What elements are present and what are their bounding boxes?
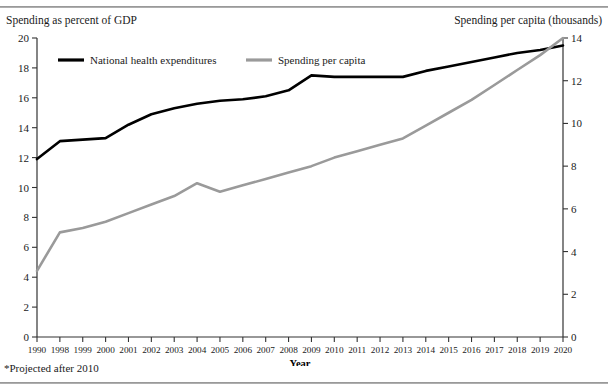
x-axis-tick-label: 2009	[302, 345, 321, 355]
bottom-divider-rule	[0, 382, 608, 384]
top-divider-rule	[0, 6, 608, 8]
x-axis-title: Year	[290, 358, 311, 366]
x-axis-tick-label: 2019	[531, 345, 550, 355]
x-axis-tick-label: 2011	[348, 345, 366, 355]
left-axis-tick-label: 2	[24, 301, 30, 313]
right-axis-tick-label: 10	[571, 117, 583, 129]
x-axis-tick-label: 2004	[188, 345, 207, 355]
right-axis-tick-label: 8	[571, 160, 577, 172]
x-axis-tick-label: 2000	[96, 345, 115, 355]
chart-footnote: *Projected after 2010	[4, 362, 99, 374]
right-axis-tick-label: 14	[571, 32, 583, 44]
left-axis-title: Spending as percent of GDP	[6, 14, 137, 26]
left-axis-tick-label: 10	[18, 182, 30, 194]
x-axis-tick-label: 2010	[325, 345, 344, 355]
right-axis-tick-label: 6	[571, 203, 577, 215]
x-axis-tick-label: 2008	[279, 345, 298, 355]
x-axis-tick-label: 2017	[485, 345, 504, 355]
x-axis-tick-label: 2003	[165, 345, 184, 355]
left-axis-tick-label: 18	[18, 62, 30, 74]
x-axis-tick-label: 2014	[417, 345, 436, 355]
x-axis: 1990199819992000200120022003200420052006…	[28, 337, 573, 366]
left-axis-tick-label: 0	[24, 331, 30, 343]
left-axis-tick-label: 20	[18, 32, 30, 44]
left-axis-tick-label: 12	[18, 152, 29, 164]
left-axis-tick-label: 16	[18, 92, 30, 104]
legend-label-nhe: National health expenditures	[90, 54, 216, 66]
right-axis-tick-label: 2	[571, 288, 577, 300]
x-axis-tick-label: 2018	[508, 345, 527, 355]
right-axis-tick-label: 12	[571, 75, 582, 87]
left-axis-tick-label: 14	[18, 122, 30, 134]
x-axis-tick-label: 2013	[394, 345, 413, 355]
right-axis-tick-label: 4	[571, 246, 577, 258]
x-axis-tick-label: 1990	[28, 345, 47, 355]
x-axis-tick-label: 2002	[142, 345, 161, 355]
x-axis-tick-label: 2007	[257, 345, 276, 355]
chart-area: 0246810121416182002468101214199019981999…	[0, 26, 608, 366]
left-axis-tick-label: 4	[24, 271, 30, 283]
x-axis-tick-label: 2001	[119, 345, 138, 355]
x-axis-tick-label: 2006	[234, 345, 253, 355]
x-axis-tick-label: 1999	[74, 345, 93, 355]
left-axis-tick-label: 6	[24, 241, 30, 253]
x-axis-tick-label: 1998	[51, 345, 70, 355]
line-chart: 0246810121416182002468101214199019981999…	[0, 26, 608, 366]
x-axis-tick-label: 2015	[439, 345, 458, 355]
left-axis: 02468101214161820	[18, 32, 37, 343]
x-axis-tick-label: 2005	[211, 345, 230, 355]
x-axis-tick-label: 2016	[462, 345, 481, 355]
right-axis: 02468101214	[563, 32, 583, 343]
left-axis-tick-label: 8	[24, 211, 30, 223]
x-axis-tick-label: 2020	[554, 345, 573, 355]
series-line-spending-per-capita	[37, 38, 563, 271]
x-axis-tick-label: 2012	[371, 345, 390, 355]
right-axis-tick-label: 0	[571, 331, 577, 343]
right-axis-title: Spending per capita (thousands)	[454, 14, 602, 26]
chart-legend: National health expendituresSpending per…	[58, 54, 365, 66]
legend-label-spc: Spending per capita	[278, 54, 365, 66]
